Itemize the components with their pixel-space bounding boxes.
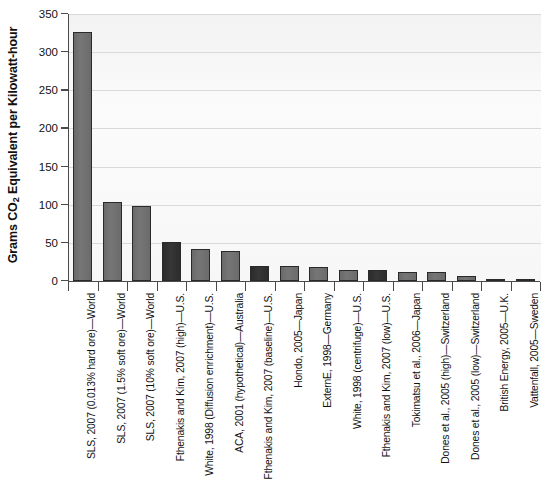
- bar: [339, 270, 358, 281]
- bar: [280, 266, 299, 281]
- y-axis-tick-label: 150: [39, 160, 58, 174]
- bar: [427, 272, 446, 281]
- y-axis-tick-mark: [61, 89, 68, 90]
- x-axis-label: ACA, 2001 (hypothetical)—Australia: [216, 293, 246, 493]
- y-axis-tick-label: 300: [39, 45, 58, 59]
- bar: [368, 270, 387, 281]
- y-axis-tick-label: 0: [52, 274, 58, 288]
- y-axis-tick-label: 350: [39, 7, 58, 21]
- x-axis-label-text: White, 1998 (centrifuge)—U.S.: [352, 293, 363, 429]
- x-axis-tick-mark: [452, 282, 453, 291]
- bar: [398, 272, 417, 281]
- x-axis-tick-mark: [245, 282, 246, 291]
- y-axis-tick-mark: [61, 127, 68, 128]
- y-axis-tick-label: 50: [45, 236, 58, 250]
- x-axis-label-text: Dones et al., 2005 (low)—Switzerland: [470, 293, 481, 460]
- bar-series: [68, 14, 540, 281]
- x-axis-label: SLS, 2007 (1.5% soft ore)—World: [98, 293, 128, 493]
- x-axis-label: Fthenakis and Kim, 2007 (low)—U.S.: [363, 293, 393, 493]
- x-axis-label: White, 1998 (Diffusion enrichment)—U.S.: [186, 293, 216, 493]
- x-axis-label-text: British Energy, 2005—U.K.: [499, 293, 510, 412]
- x-axis-label-text: SLS, 2007 (10% soft ore)—World: [145, 293, 156, 441]
- x-axis-tick-mark: [68, 282, 69, 291]
- y-axis-tick-200: 200: [0, 121, 68, 135]
- bar: [516, 279, 535, 281]
- x-axis-label-text: Dones et al., 2005 (high)—Switzerland: [440, 293, 451, 464]
- y-axis-tick-150: 150: [0, 160, 68, 174]
- x-axis-tick-mark: [363, 282, 364, 291]
- x-axis-tick-mark: [481, 282, 482, 291]
- x-axis-label: Dones et al., 2005 (low)—Switzerland: [452, 293, 482, 493]
- y-axis-tick-label: 100: [39, 198, 58, 212]
- y-axis-tick-mark: [61, 13, 68, 14]
- x-axis-label: SLS, 2007 (10% soft ore)—World: [127, 293, 157, 493]
- y-axis-tick-50: 50: [0, 236, 68, 250]
- x-axis-label-text: SLS, 2007 (1.5% soft ore)—World: [116, 293, 127, 444]
- bar: [73, 32, 92, 281]
- y-axis-tick-mark: [61, 166, 68, 167]
- x-axis-tick-mark: [127, 282, 128, 291]
- y-axis-tick-300: 300: [0, 45, 68, 59]
- x-axis-label: White, 1998 (centrifuge)—U.S.: [334, 293, 364, 493]
- x-axis-label-text: Vattenfall, 2005—Sweden: [529, 293, 540, 408]
- x-axis-label: Vattenfall, 2005—Sweden: [511, 293, 541, 493]
- y-axis-tick-mark: [61, 242, 68, 243]
- bar: [457, 276, 476, 281]
- x-axis-label-text: ACA, 2001 (hypothetical)—Australia: [234, 293, 245, 453]
- bar: [103, 202, 122, 281]
- bar: [191, 249, 210, 281]
- x-axis-label: British Energy, 2005—U.K.: [481, 293, 511, 493]
- x-axis-label-text: Fthenakis and Kim, 2007 (low)—U.S.: [381, 293, 392, 457]
- x-axis-label: Fthenakis and Kim, 2007 (high)—U.S.: [157, 293, 187, 493]
- bar: [162, 242, 181, 281]
- y-axis-tick-label: 200: [39, 121, 58, 135]
- x-axis-tick-mark: [393, 282, 394, 291]
- x-axis-tick-mark: [334, 282, 335, 291]
- y-axis-tick-mark: [61, 204, 68, 205]
- x-axis-label: Dones et al., 2005 (high)—Switzerland: [422, 293, 452, 493]
- y-axis-tick-0: 0: [0, 274, 68, 288]
- x-axis-label-text: Hondo, 2005—Japan: [293, 293, 304, 388]
- x-axis-label-text: Fthenakis and Kim, 2007 (high)—U.S.: [175, 293, 186, 461]
- x-axis-tick-mark: [422, 282, 423, 291]
- bar: [486, 279, 505, 281]
- x-axis-label: Fthenakis and Kim, 2007 (baseline)—U.S.: [245, 293, 275, 493]
- x-axis-tick-mark: [216, 282, 217, 291]
- y-axis-tick-mark: [61, 280, 68, 281]
- x-axis-label-text: ExternE, 1998—Germany: [322, 293, 333, 408]
- x-axis-tick-mark: [540, 282, 541, 291]
- x-axis-tick-mark: [157, 282, 158, 291]
- x-axis-tick-mark: [186, 282, 187, 291]
- x-axis-label-text: SLS, 2007 (0.013% hard ore)—World: [86, 293, 97, 459]
- x-axis-tick-mark: [511, 282, 512, 291]
- bar: [309, 267, 328, 281]
- x-axis-label: Hondo, 2005—Japan: [275, 293, 305, 493]
- x-axis-tick-mark: [275, 282, 276, 291]
- x-axis-label: ExternE, 1998—Germany: [304, 293, 334, 493]
- y-axis-tick-250: 250: [0, 83, 68, 97]
- x-axis-label: Tokimatsu et al., 2006—Japan: [393, 293, 423, 493]
- x-axis-label-text: White, 1998 (Diffusion enrichment)—U.S.: [204, 293, 215, 476]
- chart-figure: Grams CO2 Equivalent per Kilowatt-hour 0…: [0, 0, 558, 500]
- x-axis-label-text: Fthenakis and Kim, 2007 (baseline)—U.S.: [263, 293, 274, 479]
- bar: [221, 251, 240, 281]
- x-axis-tick-mark: [98, 282, 99, 291]
- x-axis-label: SLS, 2007 (0.013% hard ore)—World: [68, 293, 98, 493]
- y-axis-tick-100: 100: [0, 198, 68, 212]
- bar: [132, 206, 151, 281]
- y-axis-tick-mark: [61, 51, 68, 52]
- y-axis-tick-350: 350: [0, 7, 68, 21]
- x-axis-label-text: Tokimatsu et al., 2006—Japan: [411, 293, 422, 427]
- bar: [250, 266, 269, 281]
- y-axis-tick-label: 250: [39, 83, 58, 97]
- x-axis-tick-mark: [304, 282, 305, 291]
- y-axis-title-text: Grams CO2 Equivalent per Kilowatt-hour: [6, 27, 20, 264]
